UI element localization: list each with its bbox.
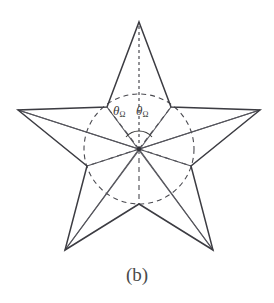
chord-left-to-inner-right bbox=[18, 110, 191, 166]
theta-subscript-left: Ω bbox=[119, 110, 125, 119]
figure-container: θΩ θΩ (b) bbox=[0, 0, 274, 303]
figure-caption: (b) bbox=[0, 264, 274, 286]
star-diagram bbox=[0, 0, 274, 303]
center-point bbox=[137, 147, 141, 151]
center-spokes-group bbox=[87, 107, 191, 204]
chord-bottom-right-to-inner-upper-left bbox=[107, 107, 213, 250]
angle-label-theta-right: θΩ bbox=[136, 104, 148, 119]
theta-subscript-right: Ω bbox=[142, 110, 148, 119]
angle-label-theta-left: θΩ bbox=[113, 104, 125, 119]
chord-bottom-left-to-inner-upper-right bbox=[65, 107, 171, 250]
